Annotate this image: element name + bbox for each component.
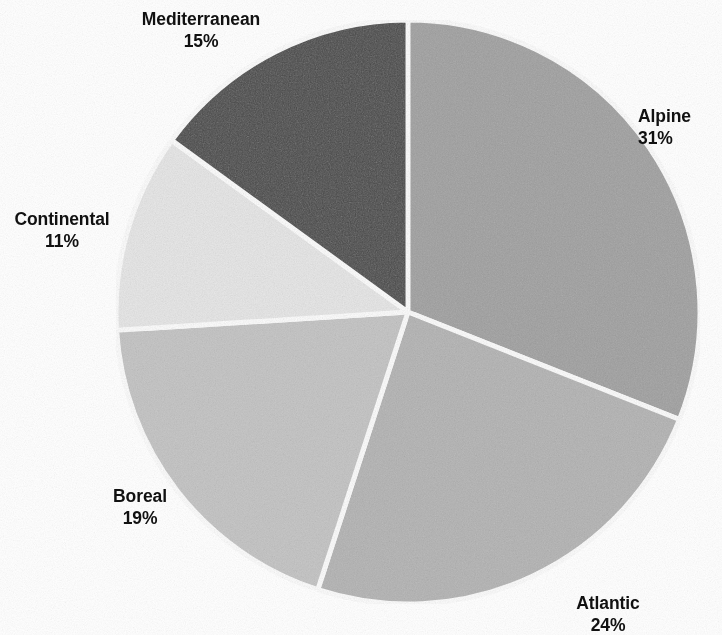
pie-chart-canvas	[0, 0, 722, 635]
pie-label-continental-value: 11%	[0, 230, 124, 252]
pie-label-mediterranean-name: Mediterranean	[121, 8, 281, 30]
pie-label-atlantic-value: 24%	[548, 614, 668, 635]
pie-label-boreal-name: Boreal	[78, 485, 202, 507]
pie-label-boreal: Boreal 19%	[78, 485, 202, 530]
pie-label-alpine: Alpine 31%	[638, 105, 722, 150]
pie-label-mediterranean: Mediterranean 15%	[121, 8, 281, 53]
pie-label-continental: Continental 11%	[0, 208, 124, 253]
pie-label-continental-name: Continental	[0, 208, 124, 230]
pie-slices-group	[116, 20, 700, 604]
pie-label-atlantic-name: Atlantic	[548, 592, 668, 614]
pie-chart: Mediterranean 15% Alpine 31% Continental…	[0, 0, 722, 635]
pie-label-alpine-value: 31%	[638, 127, 722, 149]
pie-label-atlantic: Atlantic 24%	[548, 592, 668, 635]
pie-label-mediterranean-value: 15%	[121, 30, 281, 52]
pie-label-boreal-value: 19%	[78, 507, 202, 529]
pie-label-alpine-name: Alpine	[638, 105, 722, 127]
